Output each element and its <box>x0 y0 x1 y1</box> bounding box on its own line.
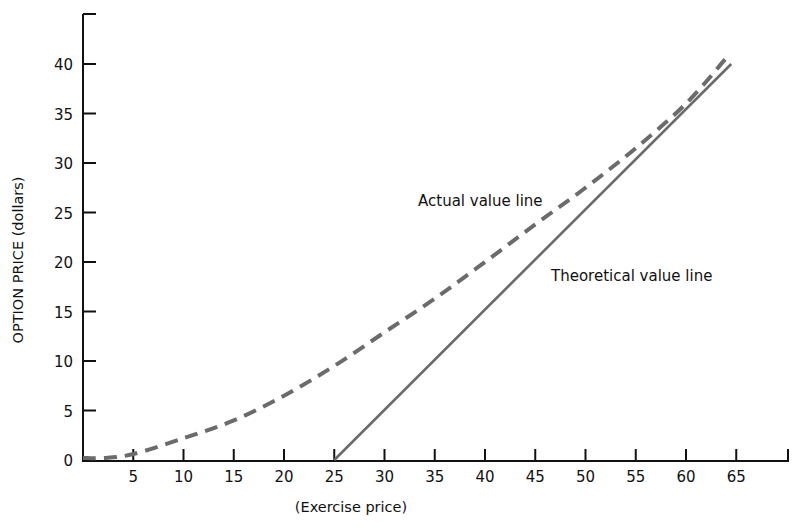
x-tick-label: 35 <box>425 468 444 486</box>
x-ticks: 5101520253035404550556065 <box>128 449 745 486</box>
x-tick-label: 25 <box>325 468 344 486</box>
x-tick-label: 60 <box>676 468 695 486</box>
x-tick-label: 30 <box>375 468 394 486</box>
option-price-chart: 0510152025303540 51015202530354045505560… <box>0 0 792 529</box>
x-tick-label: 40 <box>475 468 494 486</box>
y-tick-label: 15 <box>54 304 73 322</box>
y-tick-label: 30 <box>54 155 73 173</box>
x-tick-label: 50 <box>576 468 595 486</box>
x-tick-label: 20 <box>274 468 293 486</box>
x-tick-label: 10 <box>174 468 193 486</box>
y-tick-label: 35 <box>54 106 73 124</box>
y-tick-label: 25 <box>54 205 73 223</box>
x-tick-label: 45 <box>526 468 545 486</box>
x-tick-label: 65 <box>727 468 746 486</box>
x-axis-title: (Exercise price) <box>295 499 407 515</box>
y-tick-label: 40 <box>54 56 73 74</box>
x-tick-label: 55 <box>626 468 645 486</box>
x-tick-label: 15 <box>224 468 243 486</box>
y-tick-label: 0 <box>63 452 73 470</box>
theoretical-value-line <box>334 64 731 460</box>
y-axis-title: OPTION PRICE (dollars) <box>10 177 26 344</box>
x-tick-label: 5 <box>128 468 138 486</box>
axes <box>82 14 789 461</box>
y-ticks: 0510152025303540 <box>54 56 96 470</box>
actual-value-label: Actual value line <box>418 192 543 210</box>
actual-value-line <box>83 58 726 458</box>
y-tick-label: 10 <box>54 353 73 371</box>
y-tick-label: 20 <box>54 254 73 272</box>
theoretical-value-label: Theoretical value line <box>550 267 712 285</box>
y-tick-label: 5 <box>63 403 73 421</box>
